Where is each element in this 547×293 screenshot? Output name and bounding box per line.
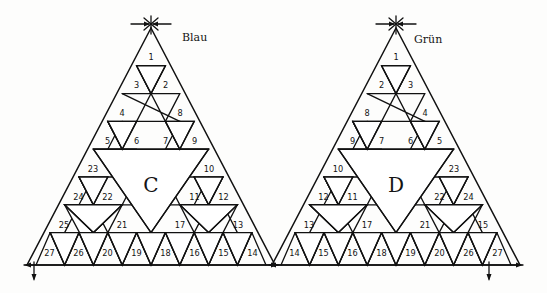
cell-d-20: 20 (434, 248, 444, 258)
figure-canvas: Blau C 1 3 2 4 8 5 6 7 9 23 10 24 22 11 … (0, 0, 547, 293)
cell-c-5: 5 (105, 136, 110, 146)
triangle-d-hole-f (310, 205, 368, 233)
cell-d-23: 23 (449, 164, 459, 174)
cell-c-22: 22 (102, 192, 112, 202)
triangle-d-color-label: Grün (414, 33, 442, 46)
cell-d-21: 21 (420, 220, 430, 230)
cell-c-6: 6 (134, 136, 139, 146)
triangle-c-letter: C (143, 173, 158, 197)
cell-c-17: 17 (175, 220, 185, 230)
cell-c-8: 8 (177, 108, 182, 118)
cell-d-15: 15 (318, 248, 328, 258)
cell-d-22: 22 (434, 192, 444, 202)
cell-d-12: 12 (318, 192, 328, 202)
triangle-d-hole-c (410, 121, 439, 149)
cell-d-17: 17 (362, 220, 372, 230)
cell-c-4: 4 (119, 108, 124, 118)
cell-c-20: 20 (102, 248, 112, 258)
triangle-d-hole-g (425, 205, 483, 233)
cell-d-16: 16 (347, 248, 357, 258)
triangle-d-axis-arrow-down (487, 274, 492, 281)
cell-d-27: 27 (492, 248, 502, 258)
cell-c-10: 10 (204, 164, 214, 174)
triangle-d-hole-a (382, 66, 411, 94)
cell-c-3: 3 (134, 80, 139, 90)
cell-d-13: 13 (304, 220, 314, 230)
cell-c-1: 1 (148, 52, 153, 62)
cell-c-11: 11 (189, 192, 199, 202)
cell-d-7: 7 (379, 136, 384, 146)
cell-d-1: 1 (393, 52, 398, 62)
cell-d-25: 15 (478, 220, 488, 230)
cell-d-2: 2 (379, 80, 384, 90)
triangle-c-group: Blau C 1 3 2 4 8 5 6 7 9 23 10 24 22 11 … (24, 16, 278, 281)
triangle-d-hole-b (353, 121, 382, 149)
triangle-c-hole-b (108, 121, 137, 149)
triangle-d-letter: D (388, 173, 404, 197)
cell-c-14: 14 (247, 248, 257, 258)
cell-c-18: 18 (160, 248, 170, 258)
cell-c-21: 21 (117, 220, 127, 230)
cell-c-23: 23 (88, 164, 98, 174)
cell-d-19: 19 (405, 248, 415, 258)
cell-c-2: 2 (163, 80, 168, 90)
cell-d-9: 9 (350, 136, 355, 146)
cell-d-4: 4 (422, 108, 427, 118)
cell-c-27: 27 (44, 248, 54, 258)
triangle-c-color-label: Blau (182, 31, 207, 44)
cell-c-15: 15 (218, 248, 228, 258)
cell-c-9: 9 (192, 136, 197, 146)
cell-d-26: 26 (463, 248, 473, 258)
cell-d-8: 8 (364, 108, 369, 118)
triangle-d-group: Grün D 1 2 3 8 4 9 7 6 5 10 23 12 11 22 … (269, 16, 523, 281)
cell-c-24: 24 (73, 192, 83, 202)
cell-c-16: 16 (189, 248, 199, 258)
cell-d-14: 14 (289, 248, 299, 258)
triangle-c-hole-c (165, 121, 194, 149)
sierpinski-diagram: Blau C 1 3 2 4 8 5 6 7 9 23 10 24 22 11 … (0, 0, 547, 293)
triangle-c-hole-a (137, 66, 166, 94)
cell-d-11: 11 (347, 192, 357, 202)
cell-c-13: 13 (233, 220, 243, 230)
cell-c-12: 12 (218, 192, 228, 202)
cell-c-19: 19 (131, 248, 141, 258)
cell-d-6: 6 (408, 136, 413, 146)
cell-c-26: 26 (73, 248, 83, 258)
cell-d-3: 3 (408, 80, 413, 90)
cell-c-25: 25 (59, 220, 69, 230)
cell-c-7: 7 (163, 136, 168, 146)
triangle-c-axis-arrow-down (32, 274, 37, 281)
cell-d-10: 10 (333, 164, 343, 174)
cell-d-24: 24 (463, 192, 473, 202)
cell-d-18: 18 (376, 248, 386, 258)
triangle-c-hole-g (180, 205, 238, 233)
cell-d-5: 5 (437, 136, 442, 146)
